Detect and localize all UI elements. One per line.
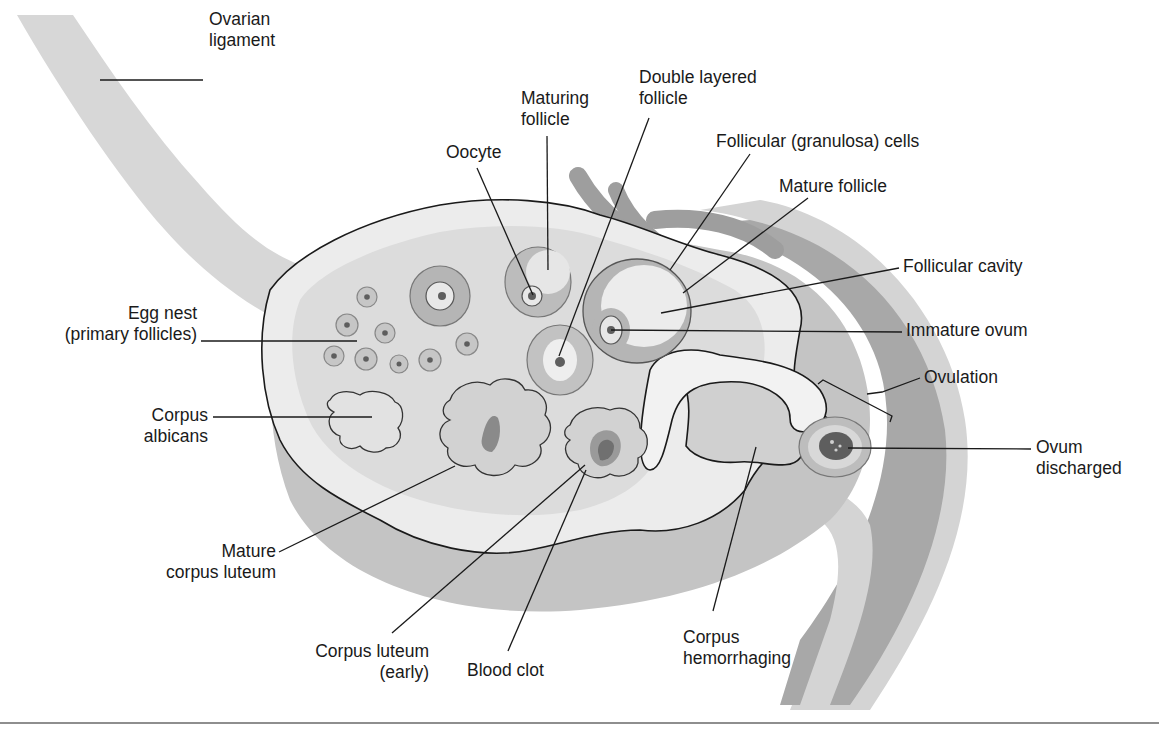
label-corpus-hemorrhaging: Corpushemorrhaging xyxy=(683,627,791,668)
label-mature-follicle: Mature follicle xyxy=(779,176,887,196)
ovarian-ligament-band xyxy=(17,15,300,330)
label-immature-ovum: Immature ovum xyxy=(906,320,1028,340)
label-line: Corpus luteum xyxy=(315,641,429,661)
label-mature-corpus-luteum: Maturecorpus luteum xyxy=(166,541,276,582)
label-ovum-discharged: Ovumdischarged xyxy=(1036,437,1122,478)
label-line: follicle xyxy=(639,88,688,108)
label-corpus-luteum-early: Corpus luteum(early) xyxy=(315,641,429,682)
label-follicular-cavity: Follicular cavity xyxy=(903,256,1023,276)
label-line: Corpus xyxy=(683,627,740,647)
label-line: Blood clot xyxy=(467,660,544,680)
label-line: corpus luteum xyxy=(166,562,276,582)
ovum-discharged-leader-line xyxy=(848,448,1031,449)
label-line: albicans xyxy=(144,426,208,446)
label-corpus-albicans: Corpusalbicans xyxy=(144,405,208,446)
label-line: Immature ovum xyxy=(906,320,1028,340)
ovum-discharged-shape xyxy=(799,417,871,477)
label-line: Double layered xyxy=(639,67,757,87)
label-oocyte: Oocyte xyxy=(446,142,501,162)
label-double-layered-follicle: Double layeredfollicle xyxy=(639,67,757,108)
label-line: Mature xyxy=(222,541,276,561)
label-line: ligament xyxy=(209,30,275,50)
label-line: Follicular (granulosa) cells xyxy=(716,131,920,151)
label-line: hemorrhaging xyxy=(683,648,791,668)
label-line: Mature follicle xyxy=(779,176,887,196)
label-line: discharged xyxy=(1036,458,1122,478)
label-egg-nest: Egg nest(primary follicles) xyxy=(65,303,197,344)
label-line: follicle xyxy=(521,109,570,129)
bottom-divider xyxy=(0,722,1159,724)
label-line: Oocyte xyxy=(446,142,501,162)
label-line: Ovulation xyxy=(924,367,998,387)
label-follicular-granulosa-cells: Follicular (granulosa) cells xyxy=(716,131,920,151)
label-line: Corpus xyxy=(152,405,209,425)
diagram-canvas: OvarianligamentOocyteMaturingfollicleDou… xyxy=(0,0,1159,733)
maturing-follicle-shape xyxy=(505,247,571,317)
label-ovulation: Ovulation xyxy=(924,367,998,387)
label-ovarian-ligament: Ovarianligament xyxy=(209,9,275,50)
label-maturing-follicle: Maturingfollicle xyxy=(521,88,589,129)
primary-growing-follicle xyxy=(410,266,470,326)
label-line: Ovarian xyxy=(209,9,270,29)
label-line: Follicular cavity xyxy=(903,256,1023,276)
label-line: Ovum xyxy=(1036,437,1083,457)
label-blood-clot: Blood clot xyxy=(467,660,544,680)
label-line: Maturing xyxy=(521,88,589,108)
label-line: Egg nest xyxy=(128,303,197,323)
label-line: (primary follicles) xyxy=(65,324,197,344)
mature-corpus-luteum-shape xyxy=(440,379,551,476)
double-layered-follicle-shape xyxy=(527,325,593,395)
ovary-diagram: OvarianligamentOocyteMaturingfollicleDou… xyxy=(0,0,1159,733)
label-line: (early) xyxy=(379,662,429,682)
